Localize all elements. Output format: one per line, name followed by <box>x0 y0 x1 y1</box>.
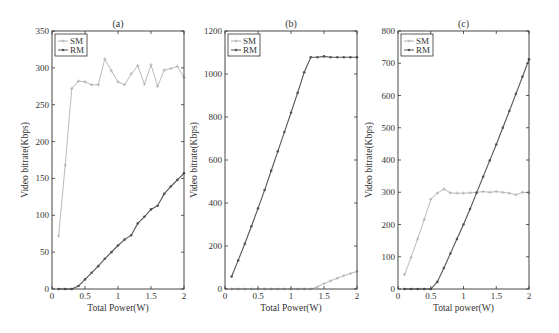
data-point-plus-marker <box>90 83 93 86</box>
y-tick-label: 300 <box>382 187 396 197</box>
x-tick-label: 2 <box>182 291 187 301</box>
data-point-plus-marker <box>169 67 172 70</box>
data-point-dot-marker <box>257 207 260 210</box>
data-point-dot-marker <box>137 222 140 225</box>
y-tick-label: 600 <box>209 155 223 165</box>
y-tick-label: 400 <box>382 155 396 165</box>
data-point-plus-marker <box>349 272 352 275</box>
data-point-dot-marker <box>502 126 505 129</box>
data-point-dot-marker <box>130 234 133 237</box>
x-tick-label: 2 <box>355 291 360 301</box>
data-point-plus-marker <box>514 193 517 196</box>
y-tick-label: 200 <box>382 220 396 230</box>
data-point-dot-marker <box>84 278 87 281</box>
data-point-dot-marker <box>277 150 280 153</box>
x-axis-title: Total Power(W) <box>260 303 321 314</box>
series-rm <box>230 55 358 278</box>
chart-panel-c: (c)00.511.520100200300400500600700800Tot… <box>364 18 531 314</box>
y-tick-label: 300 <box>36 63 50 73</box>
panel-title: (c) <box>458 18 469 30</box>
data-point-plus-marker <box>501 191 504 194</box>
data-point-dot-marker <box>263 189 266 192</box>
data-point-dot-marker <box>117 244 120 247</box>
data-point-dot-marker <box>90 271 93 274</box>
y-axis-title: Video bitrate(Kbps) <box>20 122 31 198</box>
x-tick-label: 2 <box>527 291 532 301</box>
legend: SMRM <box>228 34 260 56</box>
y-tick-label: 600 <box>382 91 396 101</box>
data-point-plus-marker <box>508 192 511 195</box>
plot-frame <box>398 31 529 289</box>
data-point-plus-marker <box>316 285 319 288</box>
data-point-plus-marker <box>83 80 86 83</box>
y-tick-label: 500 <box>382 123 396 133</box>
data-point-plus-marker <box>403 273 406 276</box>
data-point-plus-marker <box>423 218 426 221</box>
data-point-dot-marker <box>176 179 179 182</box>
y-tick-label: 400 <box>209 198 223 208</box>
data-point-plus-marker <box>410 256 413 259</box>
data-point-plus-marker <box>329 279 332 282</box>
data-point-dot-marker <box>283 131 286 134</box>
y-tick-label: 250 <box>36 100 50 110</box>
figure: (a)00.511.52050100150200250300350Total P… <box>0 0 559 333</box>
data-point-plus-marker <box>322 282 325 285</box>
y-tick-label: 800 <box>382 26 396 36</box>
data-point-dot-marker <box>110 251 113 254</box>
data-point-dot-marker <box>290 111 293 114</box>
data-point-dot-marker <box>316 56 319 59</box>
data-point-dot-marker <box>230 275 233 278</box>
x-tick-label: 1.5 <box>491 291 503 301</box>
data-point-plus-marker <box>57 234 60 237</box>
data-point-dot-marker <box>170 185 173 188</box>
chart-panel-a: (a)00.511.52050100150200250300350Total P… <box>20 18 186 314</box>
x-tick-label: 1.5 <box>318 291 330 301</box>
y-tick-label: 200 <box>36 137 50 147</box>
data-point-dot-marker <box>475 192 478 195</box>
data-point-dot-marker <box>508 110 511 113</box>
x-tick-label: 1.5 <box>145 291 157 301</box>
x-tick-label: 1 <box>116 291 121 301</box>
x-axis-title: Total Power(W) <box>87 303 148 314</box>
data-point-plus-marker <box>149 63 152 66</box>
series-sm <box>230 270 359 291</box>
x-tick-label: 0 <box>396 291 401 301</box>
x-tick-label: 1 <box>461 291 466 301</box>
data-point-dot-marker <box>436 281 439 284</box>
legend: SMRM <box>401 34 433 56</box>
data-point-dot-marker <box>156 204 159 207</box>
series-sm <box>57 57 186 237</box>
y-tick-label: 150 <box>36 173 50 183</box>
data-point-dot-marker <box>456 238 459 241</box>
data-point-dot-marker <box>303 71 306 74</box>
data-point-plus-marker <box>488 191 491 194</box>
x-tick-label: 0.5 <box>79 291 91 301</box>
series-rm <box>57 172 185 290</box>
data-point-dot-marker <box>462 223 465 226</box>
data-point-plus-marker <box>521 191 524 194</box>
data-point-plus-marker <box>462 192 465 195</box>
data-point-dot-marker <box>250 225 253 228</box>
data-point-dot-marker <box>163 193 166 196</box>
series-sm <box>403 187 531 276</box>
x-tick-label: 0 <box>50 291 55 301</box>
data-point-dot-marker <box>104 257 107 260</box>
y-tick-label: 100 <box>36 210 50 220</box>
data-point-dot-marker <box>488 159 491 162</box>
x-tick-label: 1 <box>289 291 294 301</box>
data-point-plus-marker <box>468 191 471 194</box>
data-point-dot-marker <box>343 56 346 59</box>
legend-label-rm: RM <box>243 45 257 55</box>
data-point-plus-marker <box>143 82 146 85</box>
data-point-dot-marker <box>270 169 273 172</box>
y-tick-label: 1200 <box>204 26 223 36</box>
data-point-dot-marker <box>237 259 240 262</box>
y-tick-label: 0 <box>45 284 50 294</box>
data-point-dot-marker <box>515 93 518 96</box>
data-point-plus-marker <box>416 237 419 240</box>
legend-label-rm: RM <box>70 45 84 55</box>
panel-title: (b) <box>285 18 297 30</box>
data-point-plus-marker <box>97 83 100 86</box>
y-axis-title: Video bitrate(Kbps) <box>364 122 375 198</box>
data-point-dot-marker <box>150 208 153 211</box>
